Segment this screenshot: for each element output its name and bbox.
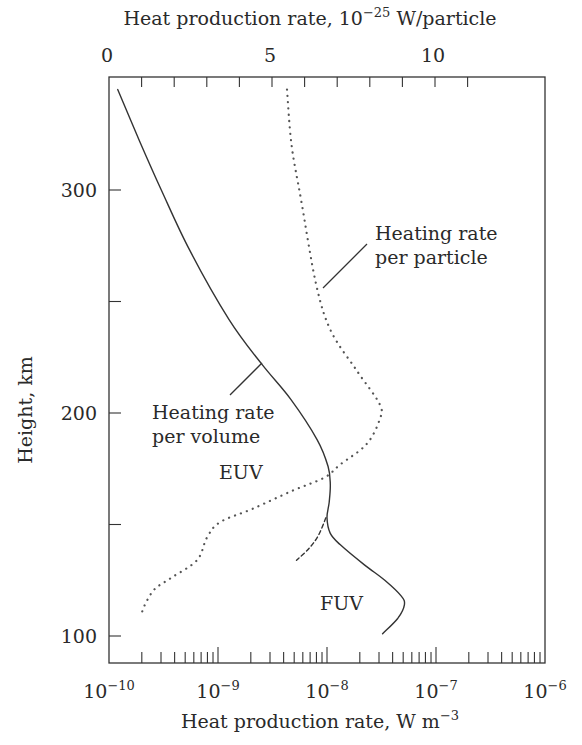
bottom-axis-title: Heat production rate, W m−3: [181, 708, 459, 732]
bottom-tick-label: 10−8: [305, 678, 348, 702]
series-layer: [118, 90, 405, 634]
left-tick-label: 100: [61, 625, 97, 647]
top-axis-title: Heat production rate, 10−25 W/particle: [123, 5, 496, 29]
top-tick-label: 10: [421, 44, 445, 66]
left-axis-ticks: [109, 190, 121, 636]
left-tick-label: 300: [61, 179, 97, 201]
annotation-per-particle: per particle: [375, 246, 488, 268]
annotation-euv: EUV: [219, 461, 263, 483]
annotation-per-volume: per volume: [152, 425, 260, 447]
annotations: Heating rateper particleHeating rateper …: [152, 222, 498, 614]
series-fuv-dashed-line: [297, 518, 326, 560]
left-tick-labels: 100200300: [61, 179, 97, 647]
annotation-per-particle: Heating rate: [375, 222, 498, 244]
left-axis-title: Height, km: [14, 356, 36, 464]
bottom-tick-label: 10−6: [523, 678, 566, 702]
top-tick-labels: 0510: [101, 44, 445, 66]
top-tick-label: 5: [264, 44, 276, 66]
annotation-per-volume: Heating rate: [152, 401, 275, 423]
series-per-volume-line: [118, 90, 405, 634]
leader-line-per-particle: [323, 244, 367, 288]
bottom-tick-labels: 10−1010−910−810−710−6: [83, 678, 566, 702]
annotation-fuv: FUV: [320, 592, 363, 614]
bottom-tick-label: 10−9: [196, 678, 239, 702]
top-axis-ticks: [142, 77, 468, 87]
bottom-axis-ticks: [142, 647, 540, 663]
top-tick-label: 0: [101, 44, 113, 66]
bottom-tick-label: 10−7: [414, 678, 457, 702]
left-tick-label: 200: [61, 402, 97, 424]
leader-line-per-volume: [230, 363, 262, 395]
chart: Heat production rate, 10−25 W/particle 0…: [0, 0, 582, 745]
bottom-tick-label: 10−10: [83, 678, 135, 702]
series-per-particle-dotted-line: [142, 90, 382, 614]
